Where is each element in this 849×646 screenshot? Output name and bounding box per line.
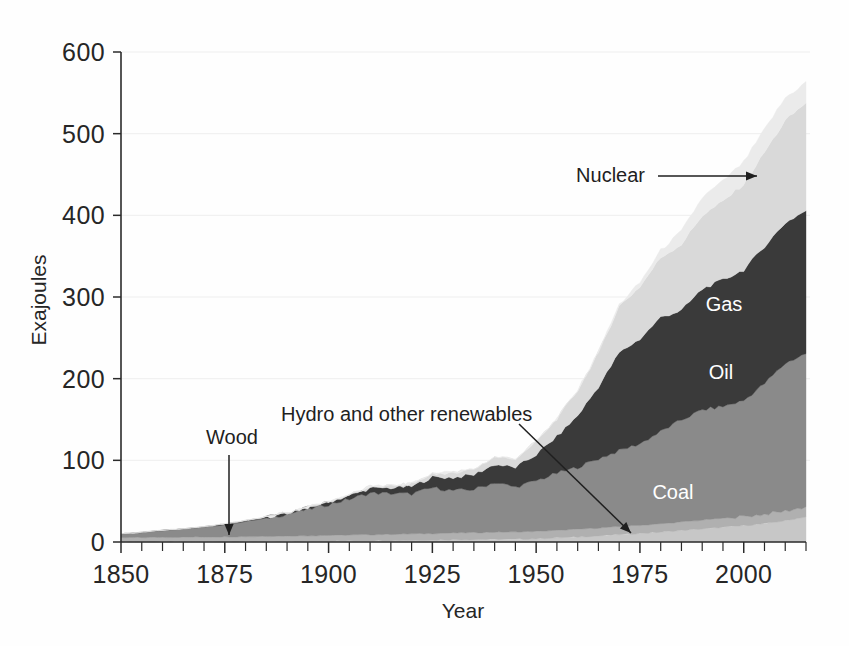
x-tick-label-1900: 1900	[300, 560, 357, 588]
annotation-label-nuclear: Nuclear	[576, 164, 645, 186]
y-axis-title: Exajoules	[27, 254, 50, 345]
x-axis-tick-labels: 1850187519001925195019752000	[92, 560, 772, 588]
x-tick-label-1950: 1950	[508, 560, 565, 588]
stacked-area-chart: 0100200300400500600 18501875190019251950…	[0, 0, 849, 646]
y-tick-label-100: 100	[62, 446, 105, 474]
y-tick-label-200: 200	[62, 365, 105, 393]
x-tick-label-1925: 1925	[404, 560, 461, 588]
series-label-oil: Oil	[709, 361, 733, 383]
y-axis-tick-labels: 0100200300400500600	[62, 38, 105, 556]
x-axis-title: Year	[442, 599, 484, 622]
y-tick-label-300: 300	[62, 283, 105, 311]
x-tick-label-1975: 1975	[611, 560, 668, 588]
annotation-label-wood: Wood	[206, 426, 258, 448]
annotation-label-hydro-and-other-renewables: Hydro and other renewables	[281, 403, 532, 425]
stacked-area-bands	[121, 82, 806, 542]
y-tick-label-400: 400	[62, 201, 105, 229]
x-tick-label-1875: 1875	[196, 560, 253, 588]
y-tick-label-0: 0	[91, 528, 105, 556]
x-tick-label-1850: 1850	[92, 560, 149, 588]
x-tick-label-2000: 2000	[715, 560, 772, 588]
series-label-gas: Gas	[706, 293, 743, 315]
energy-consumption-figure: 0100200300400500600 18501875190019251950…	[0, 0, 849, 646]
series-label-coal: Coal	[652, 481, 693, 503]
y-tick-label-500: 500	[62, 120, 105, 148]
y-tick-label-600: 600	[62, 38, 105, 66]
